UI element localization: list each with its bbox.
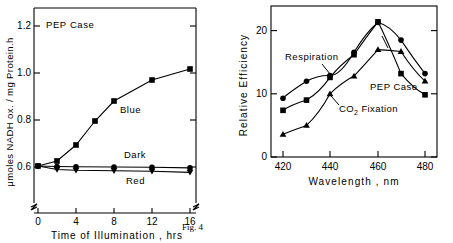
fig5-ytick-1: 20 bbox=[256, 25, 268, 36]
fig5-label-pep-case: PEP Case bbox=[370, 81, 418, 92]
fig4-axes bbox=[34, 8, 196, 213]
fig4-label-red: Red bbox=[126, 175, 145, 186]
fig5-label-co2-fixation: CO2 Fixation bbox=[339, 103, 398, 116]
fig4-plot: 1.2 1.0 0.8 0.6 0 4 8 12 16 Time of Illu… bbox=[0, 0, 227, 243]
co2-prefix: CO bbox=[339, 103, 354, 114]
fig5-xtick-1: 420 bbox=[275, 161, 292, 172]
fig4-y-ticks bbox=[34, 26, 196, 167]
fig4-series-blue bbox=[35, 66, 193, 169]
fig5-series-pep-case bbox=[280, 19, 428, 113]
fig5-xtick-4: 480 bbox=[417, 161, 434, 172]
fig4-y-axis-label: μmoles NADH ox. / mg Protein.h bbox=[4, 37, 15, 186]
leader-respiration bbox=[322, 64, 330, 74]
co2-suffix: Fixation bbox=[358, 103, 398, 114]
fig4-ytick-1: 1.2 bbox=[17, 20, 31, 31]
fig4-xtick-3: 8 bbox=[111, 216, 117, 227]
figure-5: 20 10 0 420 440 460 480 Wavelength , nm … bbox=[227, 0, 453, 243]
fig4-label-dark: Dark bbox=[124, 149, 146, 160]
fig4-xtick-1: 0 bbox=[35, 216, 41, 227]
fig4-ytick-4: 0.6 bbox=[17, 161, 31, 172]
fig4-xtick-4: 12 bbox=[146, 216, 158, 227]
fig5-ytick-2: 10 bbox=[256, 88, 268, 99]
fig4-annotation-pep-case: PEP Case bbox=[46, 19, 94, 30]
fig4-axis-break bbox=[31, 204, 199, 210]
fig4-x-axis-label: Time of Illumination , hrs bbox=[51, 230, 183, 241]
figure-4: 1.2 1.0 0.8 0.6 0 4 8 12 16 Time of Illu… bbox=[0, 0, 227, 243]
fig4-label-blue: Blue bbox=[120, 104, 141, 115]
fig5-label-respiration: Respiration bbox=[285, 51, 339, 62]
fig5-xtick-2: 440 bbox=[322, 161, 339, 172]
fig4-ytick-2: 1.0 bbox=[17, 67, 31, 78]
leader-co2-fixation bbox=[331, 96, 339, 105]
figure-4-caption: Fig. 4 bbox=[182, 222, 203, 232]
fig5-xtick-3: 460 bbox=[370, 161, 387, 172]
fig5-x-axis-label: Wavelength , nm bbox=[308, 176, 399, 187]
fig5-ytick-3: 0 bbox=[261, 151, 267, 162]
fig5-plot: 20 10 0 420 440 460 480 Wavelength , nm … bbox=[227, 0, 453, 243]
fig4-x-ticks bbox=[38, 208, 190, 213]
fig4-ytick-3: 0.8 bbox=[17, 114, 31, 125]
fig5-y-axis-label: Relative Efficiency bbox=[238, 34, 249, 136]
fig4-xtick-2: 4 bbox=[73, 216, 79, 227]
fig5-x-ticks bbox=[283, 151, 425, 157]
